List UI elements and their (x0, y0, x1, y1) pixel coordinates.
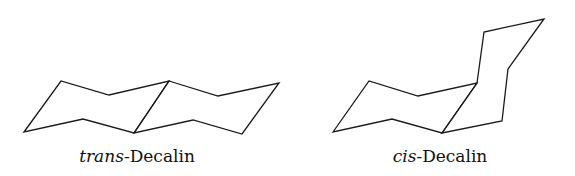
trans-decalin-ring-2 (134, 81, 279, 134)
cis-prefix: cis (393, 146, 417, 166)
trans-prefix: trans (79, 146, 124, 166)
cis-decalin-ring-2 (442, 19, 544, 133)
cis-decalin-ring-1 (333, 81, 477, 133)
cis-decalin-label: cis-Decalin (393, 146, 488, 166)
decalin-suffix: -Decalin (416, 146, 487, 166)
ring-structures (24, 19, 544, 134)
decalin-suffix: -Decalin (124, 146, 195, 166)
trans-decalin-label: trans-Decalin (79, 146, 195, 166)
trans-decalin-ring-1 (24, 81, 169, 133)
